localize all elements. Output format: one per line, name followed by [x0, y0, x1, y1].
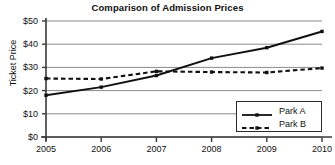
legend-label: Park A — [279, 106, 306, 116]
data-point — [210, 70, 213, 73]
data-point — [320, 66, 323, 69]
plot-area — [0, 0, 335, 165]
x-tick-label: 2005 — [36, 144, 56, 154]
data-point — [265, 71, 268, 74]
legend-marker — [255, 113, 258, 116]
data-point — [210, 56, 213, 59]
data-point — [155, 74, 158, 77]
chart-legend: Park APark B — [236, 101, 322, 132]
legend-swatch-icon — [241, 119, 273, 129]
data-point — [320, 30, 323, 33]
x-tick-label: 2007 — [146, 144, 166, 154]
legend-item[interactable]: Park B — [237, 117, 321, 130]
chart-container: Comparison of Admission Prices Ticket Pr… — [0, 0, 335, 165]
legend-swatch-icon — [241, 106, 273, 116]
series-line-1 — [46, 31, 322, 95]
legend-label: Park B — [279, 119, 306, 129]
legend-marker — [255, 126, 258, 129]
data-point — [44, 94, 47, 97]
data-point — [100, 77, 103, 80]
x-tick-label: 2008 — [202, 144, 222, 154]
data-point — [100, 85, 103, 88]
legend-item[interactable]: Park A — [237, 104, 321, 117]
x-tick-label: 2006 — [91, 144, 111, 154]
x-tick-label: 2009 — [257, 144, 277, 154]
data-point — [265, 46, 268, 49]
data-point — [155, 70, 158, 73]
data-point — [44, 77, 47, 80]
series-line-2 — [46, 68, 322, 79]
x-tick-label: 2010 — [312, 144, 332, 154]
